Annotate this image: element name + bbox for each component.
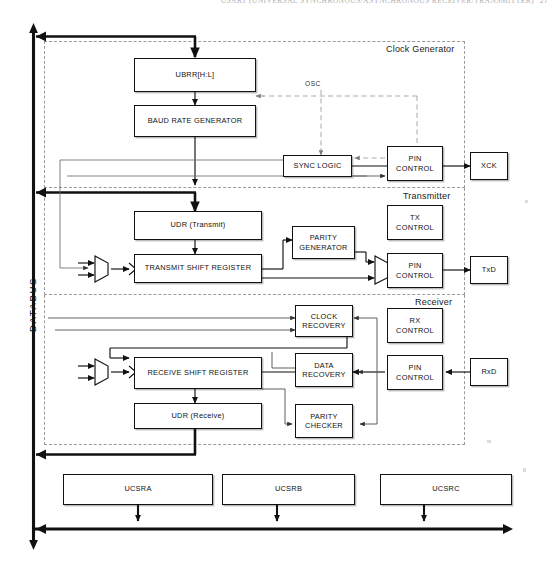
block-data-recovery: DATA RECOVERY (295, 353, 353, 387)
block-tx-pin-control-line1: PIN (396, 261, 434, 270)
block-txd-pin: TxD (470, 256, 508, 284)
block-rx-control: RX CONTROL (387, 308, 443, 343)
block-clock-recovery-line2: RECOVERY (302, 321, 345, 330)
block-baud-rate-generator-label: BAUD RATE GENERATOR (148, 117, 243, 126)
block-tx-control-line2: CONTROL (396, 223, 434, 232)
block-ubrr: UBRR[H:L] (134, 58, 256, 92)
block-receive-shift-register-label: RECEIVE SHIFT REGISTER (147, 369, 248, 378)
block-clock-pin-control: PIN CONTROL (387, 146, 443, 181)
block-parity-generator: PARITY GENERATOR (292, 226, 355, 259)
block-parity-generator-line1: PARITY (299, 233, 347, 242)
block-sync-logic: SYNC LOGIC (283, 155, 352, 177)
block-parity-generator-line2: GENERATOR (299, 243, 347, 252)
block-udr-receive: UDR (Receive) (134, 403, 262, 429)
register-ucsrb: UCSRB (222, 474, 355, 505)
block-parity-checker-line1: PARITY (305, 412, 343, 421)
register-ucsrb-label: UCSRB (275, 485, 302, 494)
block-parity-checker-line2: CHECKER (305, 421, 343, 430)
register-ucsrc: UCSRC (380, 474, 512, 505)
block-rx-control-line1: RX (396, 316, 434, 325)
register-ucsrc-label: UCSRC (432, 485, 460, 494)
block-clock-recovery: CLOCK RECOVERY (295, 305, 353, 337)
block-rx-control-line2: CONTROL (396, 326, 434, 335)
block-transmit-shift-register-label: TRANSMIT SHIFT REGISTER (145, 264, 252, 273)
block-udr-transmit: UDR (Transmit) (134, 211, 262, 240)
block-tx-control: TX CONTROL (387, 205, 443, 240)
block-udr-receive-label: UDR (Receive) (172, 412, 225, 421)
block-parity-checker: PARITY CHECKER (295, 404, 353, 438)
register-ucsra-label: UCSRA (124, 485, 151, 494)
block-receive-shift-register: RECEIVE SHIFT REGISTER (134, 357, 262, 389)
block-rxd-pin: RxD (470, 358, 508, 386)
register-ucsra: UCSRA (63, 474, 213, 505)
block-rx-pin-control: PIN CONTROL (387, 355, 443, 390)
scan-speck (487, 440, 491, 443)
block-tx-control-line1: TX (396, 213, 434, 222)
scan-speck (523, 468, 526, 472)
block-udr-transmit-label: UDR (Transmit) (171, 221, 226, 230)
block-txd-pin-label: TxD (482, 266, 496, 275)
block-clock-recovery-line1: CLOCK (302, 312, 345, 321)
block-xck-pin-label: XCK (481, 162, 497, 171)
block-rxd-pin-label: RxD (481, 368, 496, 377)
block-data-recovery-line1: DATA (302, 361, 345, 370)
block-ubrr-label: UBRR[H:L] (176, 71, 215, 80)
block-data-recovery-line2: RECOVERY (302, 370, 345, 379)
block-rx-pin-control-line2: CONTROL (396, 373, 434, 382)
block-transmit-shift-register: TRANSMIT SHIFT REGISTER (134, 254, 262, 283)
block-sync-logic-label: SYNC LOGIC (293, 162, 341, 171)
usart-block-diagram: USART (UNIVERSAL SYNCHRONOUS/ASYNCHRONOU… (0, 0, 552, 561)
block-rx-pin-control-line1: PIN (396, 363, 434, 372)
scan-speck (525, 200, 528, 203)
block-tx-pin-control: PIN CONTROL (387, 253, 443, 288)
block-xck-pin: XCK (470, 152, 508, 180)
block-clock-pin-control-line2: CONTROL (396, 164, 434, 173)
block-tx-pin-control-line2: CONTROL (396, 271, 434, 280)
block-baud-rate-generator: BAUD RATE GENERATOR (134, 105, 256, 137)
block-clock-pin-control-line1: PIN (396, 154, 434, 163)
